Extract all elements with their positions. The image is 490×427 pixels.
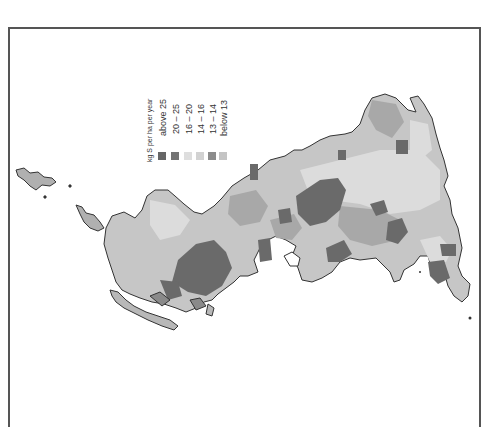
legend-swatch-13-14 [208,152,216,160]
legend-label-13-14: 13 – 14 [208,104,218,134]
legend-title: kg S per ha per year [146,99,153,162]
legend-label-20-25: 20 – 25 [171,104,181,134]
legend-swatch-20-25 [171,152,179,160]
legend-swatch-below-13 [219,152,227,160]
legend-swatch-14-16 [196,152,204,160]
legend-label-16-20: 16 – 20 [184,104,194,134]
legend-label-below-13: below 13 [219,100,229,136]
legend-swatch-above-25 [158,152,166,160]
legend-swatch-16-20 [184,152,192,160]
western-islands [16,168,104,231]
legend-label-14-16: 14 – 16 [196,104,206,134]
legend-label-above-25: above 25 [158,99,168,136]
small-island [469,317,472,320]
small-island [419,271,421,273]
